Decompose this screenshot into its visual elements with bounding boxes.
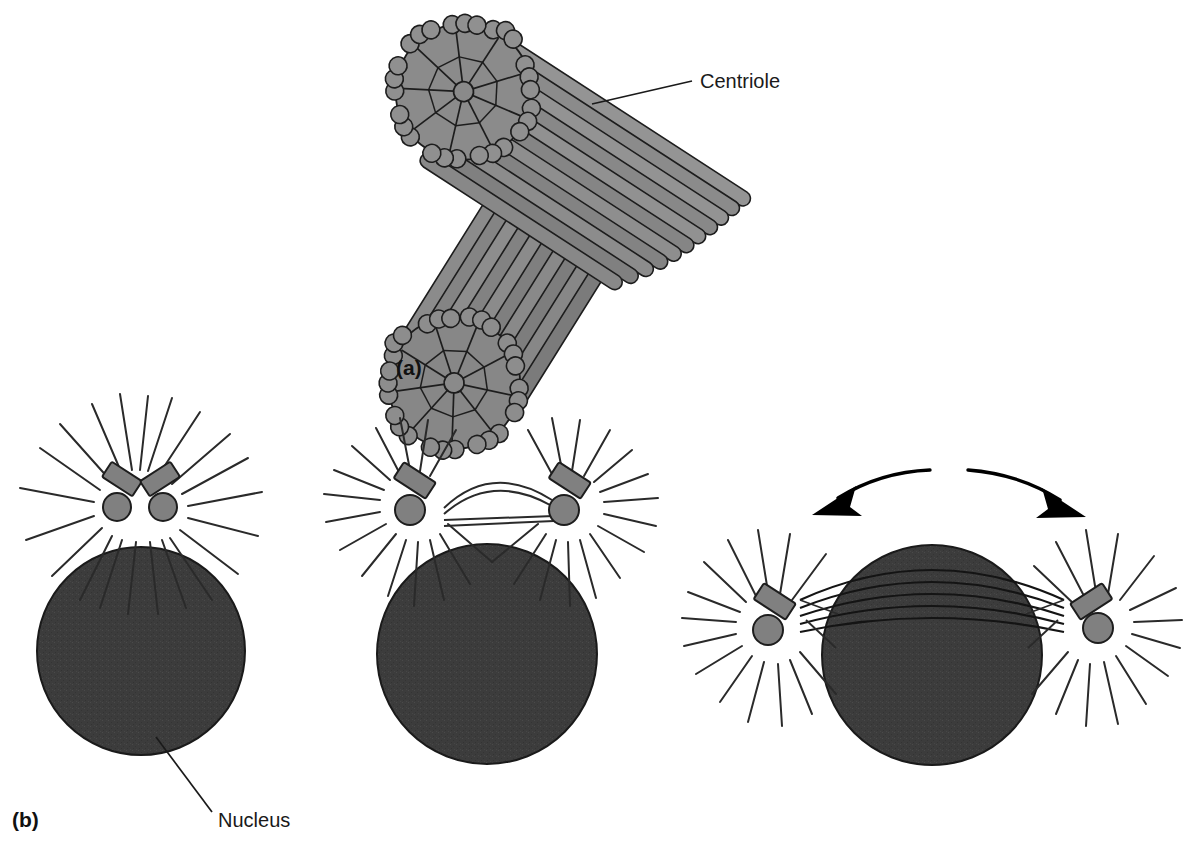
centriole-disc-stage3-right	[1083, 613, 1113, 643]
centriole-rod-right	[140, 462, 180, 497]
centriole-pair-stage-2-left	[394, 462, 436, 525]
centriole-disc-stage3-left	[753, 615, 783, 645]
nucleus-stage-1	[37, 547, 245, 755]
nucleus-stage-3	[822, 545, 1042, 765]
centriole-leader-line	[592, 81, 692, 104]
spindle-fibers-stage-2	[444, 483, 554, 526]
nucleus-stage-2	[377, 544, 597, 764]
migration-arrow-left	[812, 470, 930, 516]
migration-arrow-right	[968, 470, 1086, 518]
centriole-disc-right	[149, 493, 177, 521]
panel-a-centriole-pair: Centriole (a)	[344, 0, 780, 489]
centriole-rod-stage2-right	[549, 462, 591, 499]
centriole-disc-left	[103, 493, 131, 521]
centrosome-cycle-figure: Centriole (a)	[0, 0, 1191, 853]
stage-2-centrosomes-separating	[324, 418, 658, 764]
centriole-pair-stage-3-left	[753, 583, 796, 645]
centriole-disc-stage2-left	[395, 495, 425, 525]
centriole-pair-stage-2-right	[549, 462, 591, 525]
stage-3-centrosomes-at-poles	[682, 470, 1182, 765]
centriole-pair-left-stage-1	[102, 462, 142, 521]
centriole-label: Centriole	[700, 70, 780, 92]
panel-a-label: (a)	[396, 356, 422, 379]
figure-page: Centriole (a)	[0, 0, 1191, 853]
centriole-rod-stage2-left	[394, 462, 436, 499]
panel-b-label: (b)	[12, 808, 39, 831]
centriole-disc-stage2-right	[549, 495, 579, 525]
nucleus-leader-line	[156, 737, 212, 812]
centriole-rod-left	[102, 462, 142, 497]
centriole-rod-stage3-left	[754, 583, 796, 620]
centriole-pair-right-stage-1	[140, 462, 180, 521]
nucleus-label: Nucleus	[218, 809, 290, 831]
centriole-pair-stage-3-right	[1070, 583, 1113, 643]
stage-1-single-centrosome: Nucleus	[20, 394, 290, 831]
